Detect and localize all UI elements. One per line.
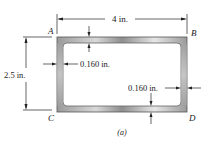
- corner-label-c: C: [48, 113, 55, 123]
- rectangular-tube-diagram: 4 in. 2.5 in. 0.160 in. 0.160 in.: [0, 0, 211, 145]
- left-thickness-label: 0.160 in.: [80, 59, 110, 69]
- corner-label-d: D: [188, 113, 196, 123]
- corner-label-a: A: [47, 26, 54, 36]
- tube-section: [57, 37, 187, 112]
- corner-label-b: B: [191, 28, 197, 38]
- height-dimension: [23, 37, 52, 110]
- right-thickness-label: 0.160 in.: [128, 83, 158, 93]
- figure-caption: (a): [117, 128, 127, 137]
- width-label: 4 in.: [112, 14, 128, 24]
- height-label: 2.5 in.: [4, 70, 26, 80]
